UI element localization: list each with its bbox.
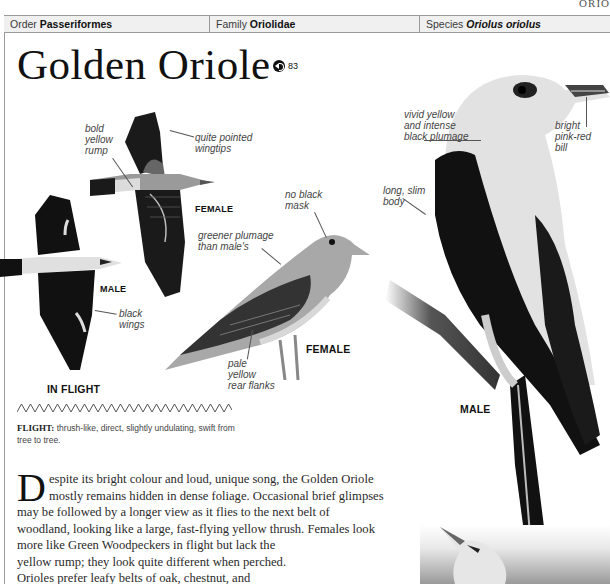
flying-male-label: MALE bbox=[100, 284, 126, 294]
family-label: Family bbox=[216, 18, 247, 30]
annotation-bold-yellow-rump: bold yellow rump bbox=[85, 123, 113, 156]
description-line: may be followed by a longer view as it f… bbox=[17, 504, 417, 521]
species-cell: Species Oriolus oriolus bbox=[420, 16, 610, 32]
annotation-pale-yellow-flanks: pale yellow rear flanks bbox=[228, 358, 275, 391]
order-cell: Order Passeriformes bbox=[4, 16, 210, 32]
section-tag: ORIO bbox=[579, 0, 610, 9]
species-label: Species bbox=[426, 18, 463, 30]
sound-track-number: 83 bbox=[288, 61, 298, 71]
description-line: woodland, looking like a large, fast-fly… bbox=[17, 521, 417, 538]
annotation-quite-pointed-wingtips: quite pointed wingtips bbox=[195, 132, 252, 154]
flight-pattern-wave bbox=[17, 402, 232, 414]
annotation-no-black-mask: no black mask bbox=[285, 189, 322, 211]
species-description: D espite its bright colour and loud, uni… bbox=[17, 471, 417, 584]
leader-line bbox=[424, 140, 481, 141]
perched-male-label: MALE bbox=[460, 403, 491, 415]
annotation-long-slim-body: long, slim body bbox=[383, 185, 425, 207]
family-value: Oriolidae bbox=[250, 18, 296, 30]
flying-female-label: FEMALE bbox=[195, 204, 233, 214]
description-line: yellow rump; they look quite different w… bbox=[17, 554, 417, 571]
sound-reference[interactable]: 83 bbox=[273, 60, 298, 72]
order-label: Order bbox=[10, 18, 37, 30]
description-line: more like Green Woodpeckers in flight bu… bbox=[17, 537, 417, 554]
species-value: Oriolus oriolus bbox=[466, 18, 541, 30]
in-flight-caption: IN FLIGHT bbox=[47, 383, 100, 395]
description-line: espite its bright colour and loud, uniqu… bbox=[17, 471, 417, 488]
page-title: Golden Oriole bbox=[17, 40, 271, 89]
annotation-vivid-yellow-black: vivid yellow and intense black plumage bbox=[404, 109, 468, 142]
taxonomy-header: Order Passeriformes Family Oriolidae Spe… bbox=[4, 15, 610, 33]
drop-cap: D bbox=[17, 473, 46, 503]
speaker-icon[interactable] bbox=[273, 60, 285, 72]
flight-description: FLIGHT: thrush-like, direct, slightly un… bbox=[17, 422, 237, 446]
description-line: mostly remains hidden in dense foliage. … bbox=[17, 488, 417, 505]
perched-female-label: FEMALE bbox=[306, 343, 350, 355]
order-value: Passeriformes bbox=[40, 18, 112, 30]
flight-heading: FLIGHT: bbox=[17, 423, 54, 433]
family-cell: Family Oriolidae bbox=[210, 16, 420, 32]
lower-photo-bird-head bbox=[440, 527, 520, 584]
annotation-black-wings: black wings bbox=[119, 308, 145, 330]
leader-line bbox=[586, 97, 587, 127]
description-line: Orioles prefer leafy belts of oak, chest… bbox=[17, 570, 417, 584]
